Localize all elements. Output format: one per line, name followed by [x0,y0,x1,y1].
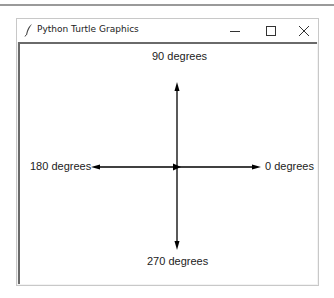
title-bar[interactable]: Python Turtle Graphics [17,19,318,42]
label-180-degrees: 180 degrees [30,160,91,172]
maximize-button[interactable] [256,19,286,42]
label-0-degrees: 0 degrees [265,160,314,172]
feather-icon [24,23,34,37]
minimize-button[interactable] [220,19,250,42]
arrow-right-icon [252,165,261,170]
close-icon [299,26,309,36]
turtle-window: Python Turtle Graphics 90 degrees 180 de… [16,18,319,286]
arrow-down-icon [175,241,180,250]
turtle-canvas[interactable]: 90 degrees 180 degrees 0 degrees 270 deg… [18,42,317,284]
arrow-left-icon [91,165,100,170]
label-270-degrees: 270 degrees [147,255,208,267]
label-90-degrees: 90 degrees [152,50,207,62]
top-divider [0,4,334,6]
minimize-icon [230,26,240,36]
arrow-up-icon [175,82,180,91]
maximize-icon [266,26,276,36]
window-title: Python Turtle Graphics [37,24,139,34]
close-button[interactable] [289,19,319,42]
